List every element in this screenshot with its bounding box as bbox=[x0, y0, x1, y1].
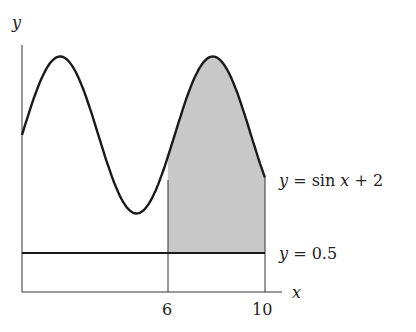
tick-label-6: 6 bbox=[162, 300, 172, 319]
shaded-area bbox=[168, 57, 265, 253]
x-axis-label: x bbox=[292, 283, 301, 302]
line-label: y = 0.5 bbox=[278, 244, 337, 263]
chart: y x 6 10 y = sin x + 2 y = 0.5 bbox=[0, 0, 416, 332]
curve-label: y = sin x + 2 bbox=[278, 171, 383, 190]
tick-label-10: 10 bbox=[252, 300, 272, 319]
y-axis-label: y bbox=[11, 13, 22, 32]
